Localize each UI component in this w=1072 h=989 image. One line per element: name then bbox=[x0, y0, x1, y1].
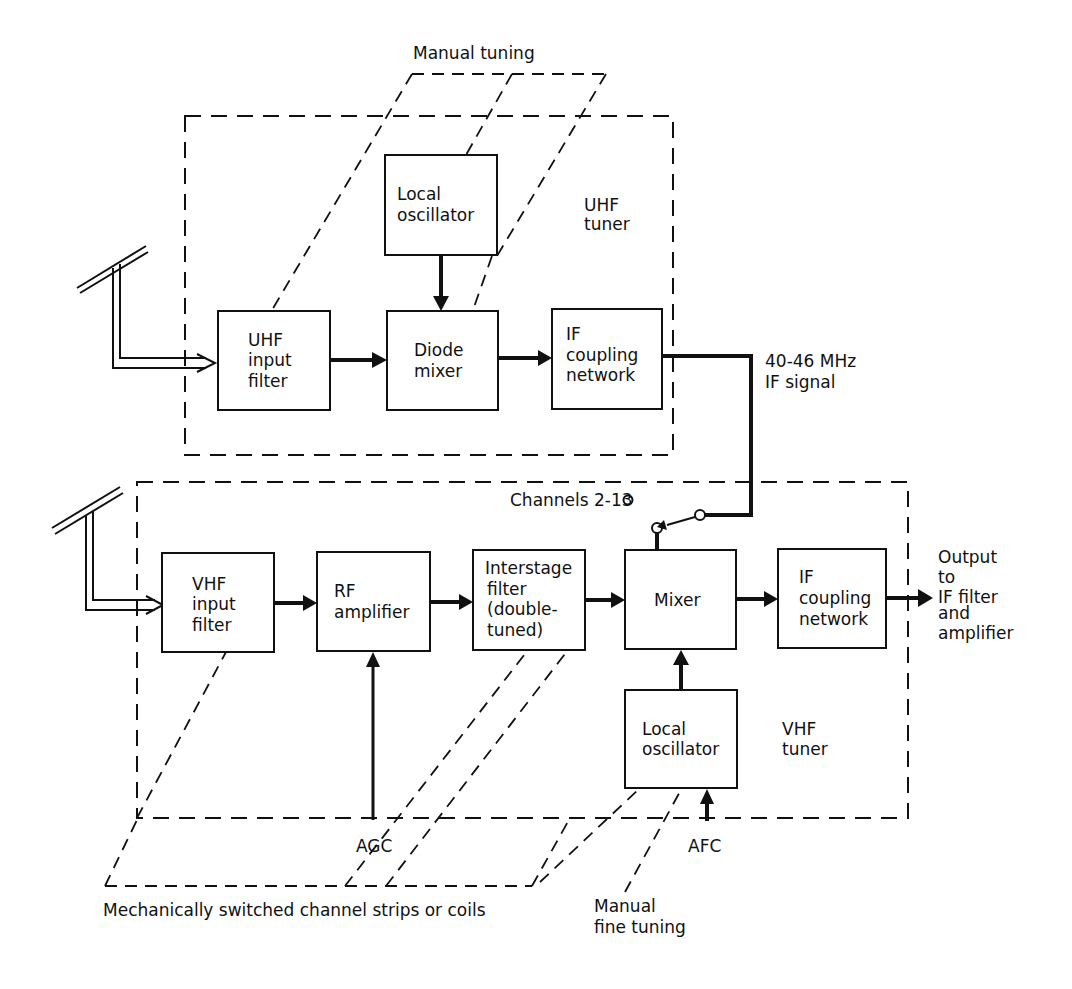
uhf-if-text-3: network bbox=[566, 365, 635, 385]
agc-label: AGC bbox=[356, 836, 392, 856]
if-signal-label-1: 40-46 MHz bbox=[765, 351, 856, 371]
manual-tuning-label: Manual tuning bbox=[413, 43, 535, 63]
output-label-5: amplifier bbox=[938, 623, 1013, 643]
vhf-if-text-3: network bbox=[799, 609, 868, 629]
uhf-antenna-icon bbox=[77, 246, 215, 372]
interstage-text-1: Interstage bbox=[485, 558, 572, 578]
afc-label: AFC bbox=[688, 836, 721, 856]
output-label-2: to bbox=[938, 567, 955, 587]
rf-amp-text-1: RF bbox=[334, 581, 356, 601]
fine-tuning-linkage bbox=[540, 788, 682, 892]
uhf-input-text-2: input bbox=[248, 350, 292, 370]
vhf-input-text-2: input bbox=[192, 594, 236, 614]
uhf-input-text-3: filter bbox=[248, 371, 288, 391]
vhf-antenna-icon bbox=[52, 487, 163, 614]
vhf-tuner-label-2: tuner bbox=[782, 739, 828, 759]
vhf-if-text-2: coupling bbox=[799, 588, 871, 608]
vhf-tuner-label: VHF bbox=[782, 719, 816, 739]
rf-amp-text-2: amplifier bbox=[334, 602, 409, 622]
interstage-text-2: filter bbox=[487, 579, 527, 599]
tv-tuner-block-diagram: Manual tuning UHF tuner Local oscillator… bbox=[0, 0, 1072, 989]
uhf-tuner-label-2: tuner bbox=[584, 214, 630, 234]
diode-mixer-text-1: Diode bbox=[414, 340, 463, 360]
interstage-text-4: tuned) bbox=[487, 620, 543, 640]
vhf-input-text-1: VHF bbox=[192, 574, 226, 594]
uhf-if-text-1: IF bbox=[566, 324, 581, 344]
interstage-text-3: (double- bbox=[487, 599, 558, 619]
output-label-4: and bbox=[938, 603, 970, 623]
channel-strips-label: Mechanically switched channel strips or … bbox=[103, 900, 486, 920]
channels-label: Channels 2-13 bbox=[510, 490, 633, 510]
vhf-if-text-1: IF bbox=[799, 567, 814, 587]
vhf-mixer-text: Mixer bbox=[654, 590, 700, 610]
uhf-if-text-2: coupling bbox=[566, 345, 638, 365]
vhf-lo-text-2: oscillator bbox=[642, 739, 719, 759]
channel-strips-linkage bbox=[105, 650, 570, 886]
fine-tuning-label-1: Manual bbox=[594, 896, 656, 916]
uhf-lo-text-1: Local bbox=[397, 184, 441, 204]
fine-tuning-label-2: fine tuning bbox=[594, 917, 686, 937]
vhf-lo-text-1: Local bbox=[642, 719, 686, 739]
uhf-lo-text-2: oscillator bbox=[397, 205, 474, 225]
uhf-tuner-label: UHF bbox=[584, 195, 619, 215]
if-signal-label-2: IF signal bbox=[765, 372, 835, 392]
uhf-input-text-1: UHF bbox=[248, 330, 283, 350]
channel-switch[interactable] bbox=[624, 496, 706, 551]
diode-mixer-text-2: mixer bbox=[414, 361, 462, 381]
output-label-1: Output bbox=[938, 547, 997, 567]
vhf-input-text-3: filter bbox=[192, 615, 232, 635]
